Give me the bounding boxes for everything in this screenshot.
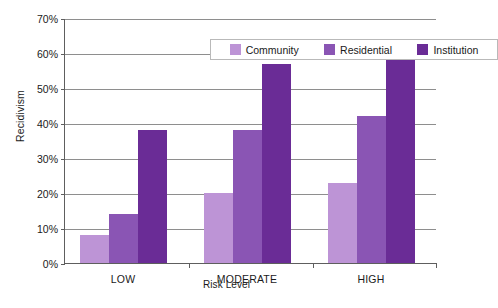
bar-high-residential[interactable] bbox=[357, 116, 386, 263]
plot-area: 0%10%20%30%40%50%60%70% LOWMODERATEHIGH … bbox=[64, 19, 436, 264]
y-axis-tick-label: 60% bbox=[37, 48, 58, 60]
y-axis-tick-mark bbox=[61, 264, 65, 265]
legend-swatch-institution-icon bbox=[417, 44, 428, 55]
legend-item-residential[interactable]: Residential bbox=[324, 44, 392, 56]
y-axis-tick-label: 50% bbox=[37, 83, 58, 95]
y-axis-tick-label: 0% bbox=[43, 258, 58, 270]
y-axis-tick-label: 70% bbox=[37, 13, 58, 25]
chart-legend: Community Residential Institution bbox=[210, 39, 498, 60]
legend-label-residential: Residential bbox=[340, 44, 392, 56]
y-axis-tick-label: 30% bbox=[37, 153, 58, 165]
bar-high-institution[interactable] bbox=[386, 57, 415, 264]
bar-moderate-institution[interactable] bbox=[262, 64, 291, 264]
legend-swatch-residential-icon bbox=[324, 44, 335, 55]
legend-label-institution: Institution bbox=[433, 44, 478, 56]
y-axis-tick-label: 40% bbox=[37, 118, 58, 130]
bar-low-residential[interactable] bbox=[109, 214, 138, 263]
legend-item-community[interactable]: Community bbox=[230, 44, 299, 56]
legend-swatch-community-icon bbox=[230, 44, 241, 55]
bar-low-community[interactable] bbox=[80, 235, 109, 263]
x-axis-title: Risk Level bbox=[0, 279, 453, 290]
legend-label-community: Community bbox=[246, 44, 299, 56]
x-axis-tick-mark bbox=[313, 263, 314, 268]
legend-item-institution[interactable]: Institution bbox=[417, 44, 478, 56]
bar-moderate-residential[interactable] bbox=[233, 130, 262, 263]
y-axis-tick-label: 20% bbox=[37, 188, 58, 200]
y-axis-tick-label: 10% bbox=[37, 223, 58, 235]
x-axis-tick-mark bbox=[436, 263, 437, 268]
bar-high-community[interactable] bbox=[328, 183, 357, 264]
bar-moderate-community[interactable] bbox=[204, 193, 233, 263]
y-axis-title: Recidivism bbox=[14, 66, 26, 166]
x-axis-tick-mark bbox=[189, 263, 190, 268]
bar-low-institution[interactable] bbox=[138, 130, 167, 263]
